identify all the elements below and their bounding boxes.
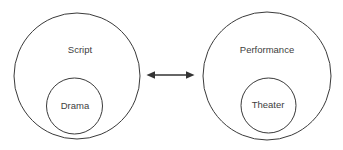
arrow-head-left-icon [147, 71, 156, 79]
label-script: Script [68, 44, 93, 55]
label-theater: Theater [252, 99, 285, 110]
label-drama: Drama [61, 100, 90, 111]
venn-diagram-canvas: Script Drama Performance Theater [0, 0, 343, 150]
left-circle-group: Script Drama [14, 13, 140, 139]
venn-diagram-svg: Script Drama Performance Theater [0, 0, 343, 150]
label-performance: Performance [240, 44, 294, 55]
right-circle-group: Performance Theater [203, 12, 331, 140]
bidirectional-arrow-group[interactable] [147, 71, 195, 79]
arrow-head-right-icon [186, 71, 195, 79]
